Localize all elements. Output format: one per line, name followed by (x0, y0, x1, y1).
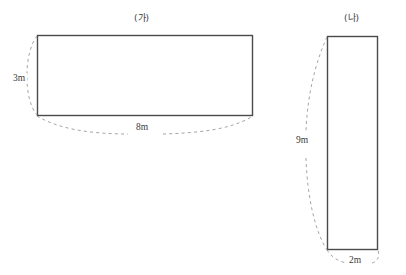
geometry-illustration (0, 0, 406, 275)
dimension-arc-ga-width-left (37, 116, 128, 134)
rectangle-ga (38, 36, 253, 116)
dimension-arc-na-width-left (327, 250, 347, 263)
caption-figure-na: (나) (344, 11, 359, 24)
dimension-label-na-width: 2m (347, 255, 363, 265)
dimension-arc-na-width-right (372, 250, 379, 263)
diagram-canvas: (가) (나) 3m 8m 9m 2m (0, 0, 406, 275)
dimension-arc-na-height-bottom (306, 158, 327, 250)
dimension-label-ga-width: 8m (134, 122, 150, 132)
dimension-label-ga-height: 3m (11, 73, 27, 83)
dimension-label-na-height: 9m (294, 135, 310, 145)
dimension-arc-na-height-top (306, 37, 327, 131)
dimension-arc-ga-width-right (163, 116, 253, 134)
caption-figure-ga: (가) (134, 11, 149, 24)
rectangle-na (328, 37, 378, 250)
dimension-arc-ga-height (27, 36, 37, 115)
